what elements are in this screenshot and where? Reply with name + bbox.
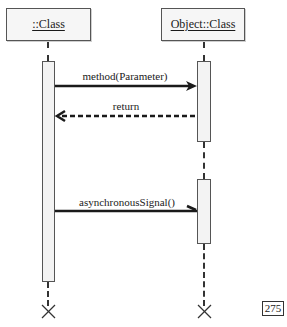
page-number: 275 (262, 301, 284, 316)
sequence-diagram: ::Class Object::Class method(Parameter) … (0, 0, 287, 327)
async-message-arrow (55, 206, 197, 211)
arrows-layer (0, 0, 287, 327)
sync-message-arrow (55, 81, 197, 91)
destroy-x-icon (42, 305, 55, 318)
return-message-arrow (57, 111, 197, 121)
destroy-x-icon (198, 305, 211, 318)
half-arrowhead-icon (187, 206, 196, 210)
